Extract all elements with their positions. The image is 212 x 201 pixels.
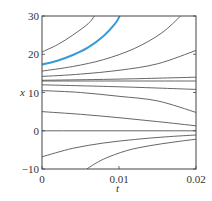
solution-curve: [42, 85, 196, 90]
y-tick-label: 0: [34, 125, 40, 137]
y-tick-label: 30: [28, 10, 40, 22]
y-tick-label: −10: [22, 163, 40, 175]
y-tick-label: 20: [28, 48, 40, 60]
plot-frame: [42, 16, 196, 169]
highlighted-solution-curve: [42, 16, 120, 65]
x-tick-label: 0.02: [186, 173, 205, 185]
solution-curve: [42, 135, 196, 157]
solution-curves: [42, 16, 196, 169]
solution-curve: [42, 77, 196, 80]
x-tick-label: 0: [39, 173, 45, 185]
y-axis: −100102030: [22, 10, 196, 175]
solution-curve: [42, 91, 196, 113]
solution-curve: [87, 139, 196, 169]
y-tick-label: 10: [28, 87, 40, 99]
y-axis-label: x: [19, 86, 25, 98]
solution-curve: [42, 16, 94, 52]
chart: −100102030 00.010.02 x t: [0, 0, 212, 201]
solution-curve: [42, 112, 196, 126]
